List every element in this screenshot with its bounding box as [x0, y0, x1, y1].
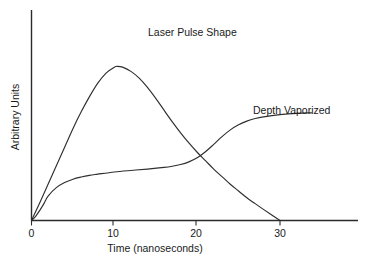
x-axis-title: Time (nanoseconds) [107, 242, 202, 254]
y-axis-title: Arbitrary Units [9, 84, 21, 151]
x-axis-ticks [32, 221, 281, 226]
x-tick-label-30: 30 [274, 227, 286, 239]
annotation-laser-pulse-shape: Laser Pulse Shape [148, 26, 237, 38]
chart-figure: 0 10 20 30 Time (nanoseconds) Arbitrary … [0, 0, 366, 261]
chart-svg: 0 10 20 30 Time (nanoseconds) Arbitrary … [0, 0, 366, 261]
annotation-depth-vaporized: Depth Vaporized [253, 104, 331, 116]
series-line-laser-pulse-shape [32, 66, 281, 220]
series-line-depth-vaporized [32, 113, 312, 221]
x-tick-label-0: 0 [29, 227, 35, 239]
x-tick-label-20: 20 [190, 227, 202, 239]
x-tick-label-10: 10 [107, 227, 119, 239]
